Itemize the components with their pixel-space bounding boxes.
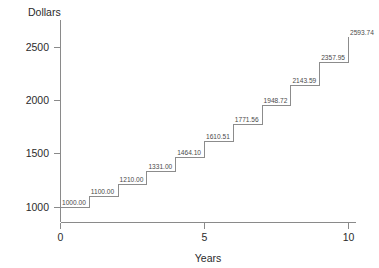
y-axis-title: Dollars [28, 6, 61, 18]
data-point-label: 1948.72 [264, 97, 288, 104]
data-point-label: 2143.59 [292, 77, 316, 84]
y-tick-label: 1500 [26, 147, 50, 159]
data-point-label: 1000.00 [62, 199, 86, 206]
data-point-label: 1464.10 [177, 149, 201, 156]
y-tick-label: 2500 [26, 41, 50, 53]
x-tick-label: 0 [58, 231, 64, 243]
x-axis-title: Years [195, 252, 221, 264]
chart-plot-area: Dollars 1000150020002500 0510 1000.00110… [0, 0, 379, 268]
y-axis-ticks: 1000150020002500 [26, 41, 61, 213]
step-series-line [61, 37, 349, 207]
data-point-label: 1771.56 [235, 116, 259, 123]
data-point-label: 1210.00 [120, 176, 144, 183]
compound-interest-step-chart: Dollars 1000150020002500 0510 1000.00110… [0, 0, 379, 268]
data-point-label: 2357.95 [321, 54, 345, 61]
data-point-label: 2593.74 [350, 29, 374, 36]
x-axis-ticks: 0510 [58, 223, 355, 244]
x-tick-label: 10 [343, 231, 355, 243]
data-point-label: 1610.51 [206, 133, 230, 140]
y-tick-label: 2000 [26, 94, 50, 106]
x-tick-label: 5 [202, 231, 208, 243]
y-tick-label: 1000 [26, 201, 50, 213]
data-point-label: 1100.00 [91, 188, 115, 195]
data-point-labels: 1000.001100.001210.001331.001464.101610.… [62, 29, 374, 206]
data-point-label: 1331.00 [148, 163, 172, 170]
